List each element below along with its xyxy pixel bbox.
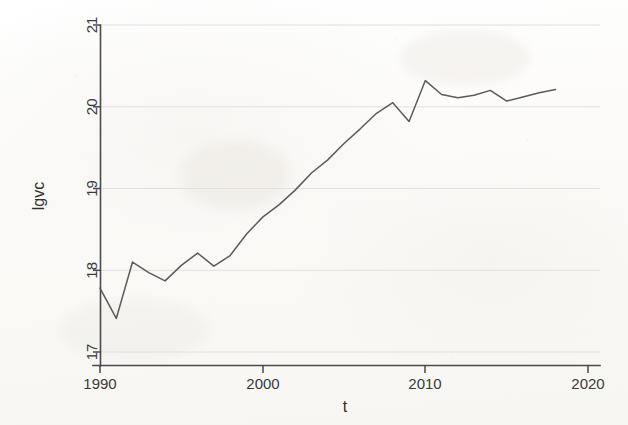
x-axis-tick-labels: 1990 2000 2010 2020 — [83, 375, 604, 392]
line-chart-svg: 21 20 19 18 17 1990 2000 2010 2020 lgvc … — [0, 0, 628, 425]
y-tick-label-18: 18 — [83, 262, 100, 279]
chart-figure: 21 20 19 18 17 1990 2000 2010 2020 lgvc … — [0, 0, 628, 425]
x-tick-label-2000: 2000 — [246, 375, 279, 392]
y-tick-label-21: 21 — [83, 17, 100, 34]
y-tick-label-17: 17 — [83, 344, 100, 361]
y-axis-title: lgvc — [30, 182, 47, 210]
x-tick-label-1990: 1990 — [83, 375, 116, 392]
y-tick-label-19: 19 — [83, 180, 100, 197]
x-tick-label-2020: 2020 — [571, 375, 604, 392]
gridlines — [100, 25, 600, 352]
x-tick-label-2010: 2010 — [408, 375, 441, 392]
y-axis-tick-labels: 21 20 19 18 17 — [83, 17, 100, 361]
axes — [93, 25, 600, 366]
x-axis-title: t — [343, 398, 348, 415]
x-axis-ticks — [100, 366, 588, 373]
y-tick-label-20: 20 — [83, 98, 100, 115]
series-line-lgvc — [100, 81, 555, 319]
